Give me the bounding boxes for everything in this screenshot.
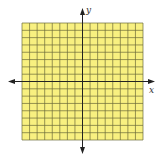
x-axis-left-arrow-icon bbox=[8, 79, 15, 84]
x-axis-right-arrow-icon bbox=[148, 79, 155, 84]
y-axis-label: y bbox=[85, 5, 92, 15]
x-axis-label: x bbox=[149, 85, 154, 95]
coordinate-plane: x y bbox=[0, 0, 161, 162]
y-axis-up-arrow-icon bbox=[80, 8, 85, 15]
y-axis-down-arrow-icon bbox=[80, 147, 85, 154]
